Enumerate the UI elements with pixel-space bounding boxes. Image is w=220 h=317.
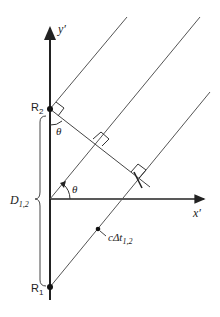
x-axis-label: x′: [193, 207, 201, 219]
distance-text: D: [10, 193, 19, 207]
wavefront-line-mid: [50, 17, 200, 199]
r2-label: R2: [31, 102, 43, 116]
r1-label: R1: [31, 283, 43, 297]
path-marker-dot: [96, 227, 101, 232]
theta-top-label: θ: [56, 126, 61, 137]
receiver-r1-dot: [47, 284, 53, 290]
r2-text: R: [31, 101, 39, 113]
distance-sub: 1,2: [19, 200, 29, 209]
right-angle-r1: [131, 164, 146, 178]
distance-brace: [35, 116, 46, 286]
path-label: cΔt1,2: [108, 232, 132, 246]
right-angle-r2: [56, 102, 64, 116]
r1-sub: 1: [39, 288, 43, 297]
r1-text: R: [31, 282, 39, 294]
geometry-diagram: [0, 0, 220, 317]
r2-sub: 2: [39, 107, 43, 116]
receiver-r2-dot: [47, 106, 53, 112]
distance-label: D1,2: [10, 194, 29, 209]
y-axis-label: y′: [58, 23, 66, 35]
path-sub: 1,2: [122, 237, 132, 246]
theta-origin-label: θ: [72, 184, 77, 195]
path-text: cΔt: [108, 231, 122, 243]
